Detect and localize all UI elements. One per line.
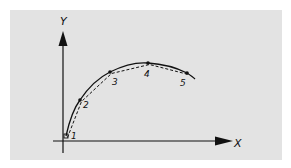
x-axis-label: X <box>233 137 242 150</box>
point-5-label: 5 <box>180 78 186 88</box>
y-axis-label: Y <box>60 15 68 28</box>
point-5-marker <box>185 71 189 75</box>
point-2-marker <box>78 98 82 102</box>
point-4-marker <box>146 61 150 65</box>
point-3-label: 3 <box>112 77 118 87</box>
trajectory-diagram: Y X 1 2 3 4 5 <box>0 0 291 168</box>
point-1-label: 1 <box>71 131 77 141</box>
point-3-marker <box>108 70 112 74</box>
y-axis-arrow-icon <box>59 31 68 46</box>
point-4-label: 4 <box>144 69 150 79</box>
x-axis-arrow-icon <box>215 137 233 146</box>
point-2-label: 2 <box>83 100 89 110</box>
